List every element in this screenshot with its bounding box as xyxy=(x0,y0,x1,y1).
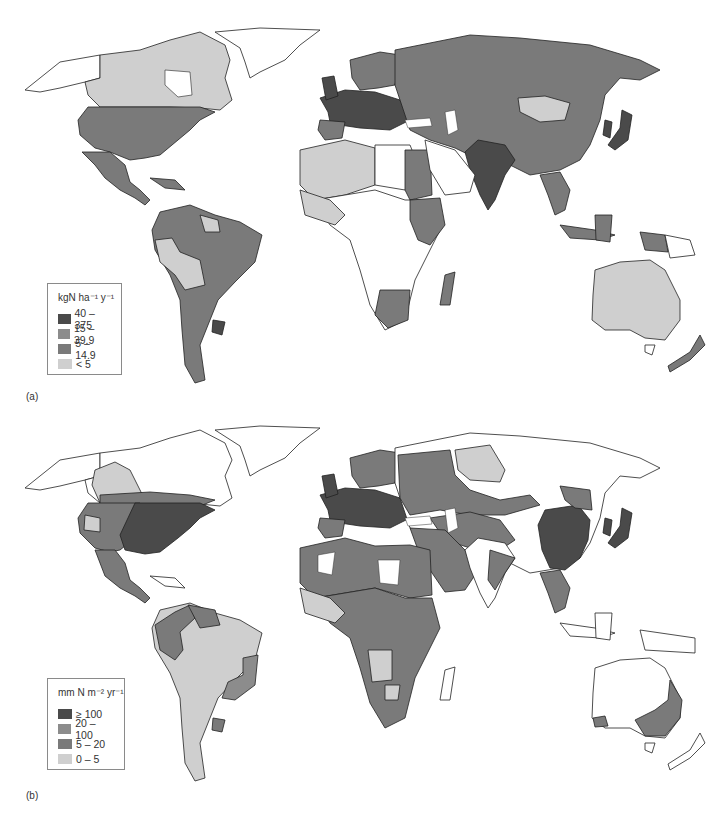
legend-swatch xyxy=(58,754,72,764)
legend-swatch xyxy=(58,344,71,354)
legend-label: 0 – 5 xyxy=(76,753,99,765)
legend-label: 5 – 20 xyxy=(76,738,105,750)
legend-item: 5 – 14.9 xyxy=(58,341,111,356)
legend-title-a: kgN ha⁻¹ y⁻¹ xyxy=(58,292,111,303)
legend-label: < 5 xyxy=(76,358,91,370)
legend-swatch xyxy=(58,359,72,369)
legend-item: 20 – 100 xyxy=(58,721,114,736)
map-panel-a: kgN ha⁻¹ y⁻¹ 40 – 375 15 – 39.9 5 – 14.9… xyxy=(0,0,725,400)
legend-swatch xyxy=(58,739,72,749)
legend-item: 0 – 5 xyxy=(58,751,114,766)
legend-swatch xyxy=(58,709,72,719)
panel-label-b: (b) xyxy=(26,790,38,801)
legend-swatch xyxy=(58,724,71,734)
map-panel-b: mm N m⁻² yr⁻¹ ≥ 100 20 – 100 5 – 20 0 – … xyxy=(0,400,725,818)
legend-swatch xyxy=(58,329,70,339)
legend-title-b: mm N m⁻² yr⁻¹ xyxy=(58,687,114,698)
legend-b: mm N m⁻² yr⁻¹ ≥ 100 20 – 100 5 – 20 0 – … xyxy=(47,678,125,770)
legend-swatch xyxy=(58,314,71,324)
legend-a: kgN ha⁻¹ y⁻¹ 40 – 375 15 – 39.9 5 – 14.9… xyxy=(47,283,122,375)
